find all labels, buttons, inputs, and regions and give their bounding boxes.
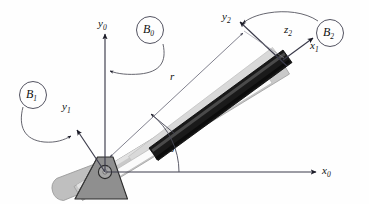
axis-label-y0: y0: [98, 18, 107, 32]
dimension-label-r: r: [170, 71, 174, 82]
angle-label-theta: θ: [169, 143, 174, 154]
axis-label-x0: x0: [322, 165, 331, 179]
frame-label-b1: B1: [26, 88, 37, 103]
axis-x1: [283, 38, 313, 60]
leader-b2: [243, 12, 318, 23]
frame-label-b2: B2: [323, 26, 334, 41]
axis-label-y2: y2: [222, 11, 231, 25]
diagram-canvas: [0, 0, 369, 204]
axis-label-y1: y1: [62, 101, 71, 115]
frame-label-b0: B0: [143, 23, 154, 38]
axis-label-x1: x1: [310, 40, 319, 54]
kinematic-diagram-figure: y0 x0 y1 x1 y2 z2 B0 B1 B2 r θ: [0, 0, 369, 204]
axis-label-z2: z2: [284, 24, 292, 38]
leader-b0: [110, 44, 164, 74]
